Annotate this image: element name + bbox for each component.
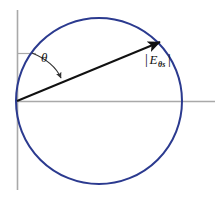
polar-scattering-diagram: θ | E θs | (0, 0, 223, 200)
field-vector (17, 42, 160, 101)
magnitude-subscript: θs (158, 60, 165, 69)
figure-container: θ | E θs | (0, 0, 223, 200)
magnitude-bar-open: | (145, 52, 148, 67)
magnitude-bar-close: | (168, 52, 171, 67)
angle-label: θ (41, 50, 48, 65)
magnitude-symbol: E (149, 52, 158, 67)
